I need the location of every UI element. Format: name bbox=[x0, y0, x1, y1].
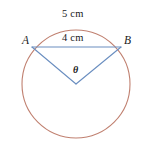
arc-length-label: 5 cm bbox=[62, 9, 84, 20]
radius-to-a-line bbox=[32, 47, 76, 84]
point-a-label: A bbox=[22, 35, 29, 47]
geometry-canvas bbox=[0, 0, 148, 155]
point-b-label: B bbox=[124, 35, 131, 47]
chord-length-label: 4 cm bbox=[62, 33, 84, 44]
angle-theta-label: θ bbox=[73, 65, 78, 75]
radius-to-b-line bbox=[76, 47, 121, 84]
geometry-figure: 5 cm 4 cm A B θ bbox=[0, 0, 148, 155]
